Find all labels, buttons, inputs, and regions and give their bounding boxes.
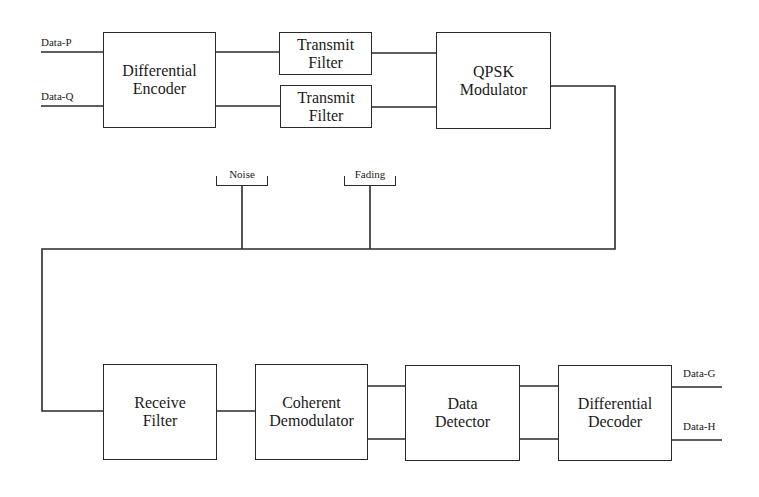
block-label-line1: Data (435, 395, 490, 413)
wire-qpsk-channel (42, 86, 615, 411)
output-label-data-h: Data-H (683, 420, 715, 432)
transmit-filter-lower-block: TransmitFilter (280, 85, 372, 128)
data-detector-block: DataDetector (405, 365, 520, 461)
receive-filter-block: ReceiveFilter (103, 364, 217, 460)
block-label-line1: Coherent (269, 394, 353, 412)
input-label-data-q: Data-Q (41, 90, 73, 102)
block-label-line2: Modulator (460, 81, 528, 99)
block-label-line1: Differential (578, 395, 652, 413)
differential-decoder-block: DifferentialDecoder (558, 365, 672, 461)
block-label-line2: Detector (435, 413, 490, 431)
block-label-line1: Transmit (297, 36, 354, 54)
block-label-line2: Encoder (122, 80, 196, 98)
coherent-demodulator-block: CoherentDemodulator (255, 364, 368, 460)
output-label-data-g: Data-G (683, 367, 715, 379)
block-label-line1: Receive (134, 394, 186, 412)
fading-label: Fading (344, 168, 396, 180)
block-label-line2: Decoder (578, 413, 652, 431)
differential-encoder-block: DifferentialEncoder (103, 32, 216, 128)
block-label-line2: Demodulator (269, 412, 353, 430)
block-label-line1: Transmit (297, 89, 354, 107)
block-label-line1: Differential (122, 62, 196, 80)
qpsk-modulator-block: QPSKModulator (436, 32, 551, 129)
block-label-line2: Filter (297, 107, 354, 125)
input-label-data-p: Data-P (41, 36, 72, 48)
block-label-line1: QPSK (460, 63, 528, 81)
noise-label: Noise (216, 168, 268, 180)
transmit-filter-upper-block: TransmitFilter (279, 32, 372, 75)
block-label-line2: Filter (134, 412, 186, 430)
block-label-line2: Filter (297, 54, 354, 72)
